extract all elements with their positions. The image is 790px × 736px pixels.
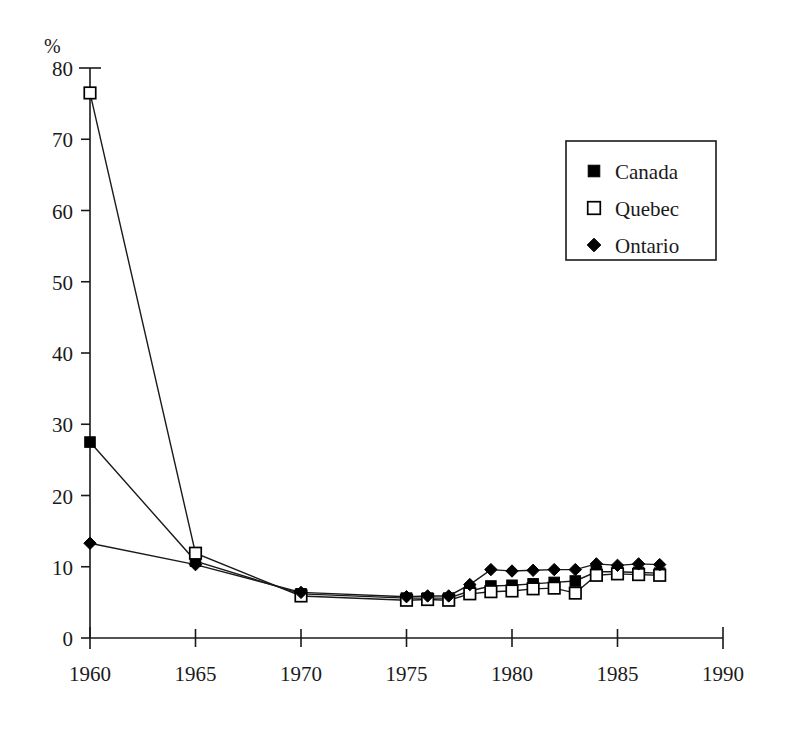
data-point-open-square [548,582,559,593]
x-axis-tick-label: 1990 [702,662,744,686]
data-point-diamond [485,563,497,575]
x-axis-tick-label: 1985 [597,662,639,686]
y-axis-tick-label: 30 [52,413,73,437]
data-point-filled-square [85,437,96,448]
line-chart: 01020304050607080 1960196519701975198019… [0,0,790,736]
data-point-open-square [527,583,538,594]
data-point-filled-square [588,165,600,177]
y-axis-tick-label: 40 [52,342,73,366]
y-axis-tick-label: 70 [52,128,73,152]
x-axis-tick-label: 1965 [175,662,217,686]
data-point-open-square [588,202,601,215]
data-point-diamond [506,565,518,577]
legend-label-ontario: Ontario [615,234,679,258]
y-axis-tick-labels: 01020304050607080 [52,57,73,651]
chart-container: 01020304050607080 1960196519701975198019… [0,0,790,736]
data-point-open-square [570,587,581,598]
y-axis-tick-label: 60 [52,200,73,224]
data-point-diamond [527,564,539,576]
legend-label-quebec: Quebec [615,197,679,221]
x-axis-tick-label: 1975 [386,662,428,686]
data-point-open-square [591,570,602,581]
x-axis-tick-label: 1980 [491,662,533,686]
data-point-open-square [506,585,517,596]
y-axis-tick-label: 80 [52,57,73,81]
y-axis-unit-label: % [44,35,61,57]
y-axis-tick-label: 10 [52,556,73,580]
y-axis-tick-label: 0 [63,627,74,651]
data-point-open-square [84,87,95,98]
x-axis-tick-label: 1970 [280,662,322,686]
x-axis-tick-labels: 1960196519701975198019851990 [69,662,744,686]
legend-label-canada: Canada [615,160,679,184]
chart-legend: CanadaQuebecOntario [566,141,716,260]
data-point-diamond [84,537,96,549]
x-axis-tick-label: 1960 [69,662,111,686]
series-markers-canada [85,437,665,604]
y-axis-tick-label: 50 [52,271,73,295]
data-point-diamond [548,563,560,575]
y-axis-tick-label: 20 [52,485,73,509]
data-point-diamond [569,563,581,575]
data-point-open-square [190,547,201,558]
data-point-open-square [485,586,496,597]
data-point-filled-square [570,576,581,587]
